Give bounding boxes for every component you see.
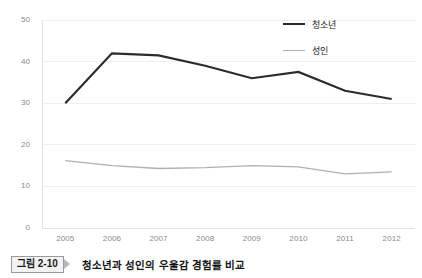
y-tick-label: 40	[8, 57, 30, 66]
x-tick-label: 2009	[235, 234, 269, 243]
figure-caption: 그림 2-10 청소년과 성인의 우울감 경험률 비교	[0, 250, 422, 278]
y-tick-label: 0	[8, 223, 30, 232]
x-tick-label: 2007	[142, 234, 176, 243]
x-tick-label: 2006	[95, 234, 129, 243]
chart-legend: 청소년성인	[283, 14, 413, 66]
series-line-1	[65, 161, 391, 174]
figure-caption-title: 청소년과 성인의 우울감 경험률 비교	[82, 257, 246, 272]
x-tick-label: 2005	[48, 234, 82, 243]
y-tick-label: 30	[8, 98, 30, 107]
legend-label: 성인	[312, 44, 328, 57]
caption-tag-group: 그림 2-10	[11, 256, 70, 273]
y-tick-label: 50	[8, 15, 30, 24]
x-tick-label: 2012	[375, 234, 409, 243]
figure-number-tag: 그림 2-10	[11, 256, 64, 273]
legend-swatch-icon	[283, 50, 305, 51]
series-lines	[65, 53, 391, 174]
legend-swatch-icon	[283, 23, 305, 25]
legend-item: 성인	[283, 40, 413, 60]
x-tick-label: 2011	[328, 234, 362, 243]
legend-item: 청소년	[283, 14, 413, 34]
y-tick-label: 10	[8, 181, 30, 190]
legend-label: 청소년	[312, 18, 336, 31]
y-tick-label: 20	[8, 140, 30, 149]
triangle-right-icon	[64, 259, 70, 269]
x-tick-label: 2010	[281, 234, 315, 243]
figure-container: 01020304050 2005200620072008200920102011…	[0, 0, 422, 278]
x-tick-label: 2008	[188, 234, 222, 243]
